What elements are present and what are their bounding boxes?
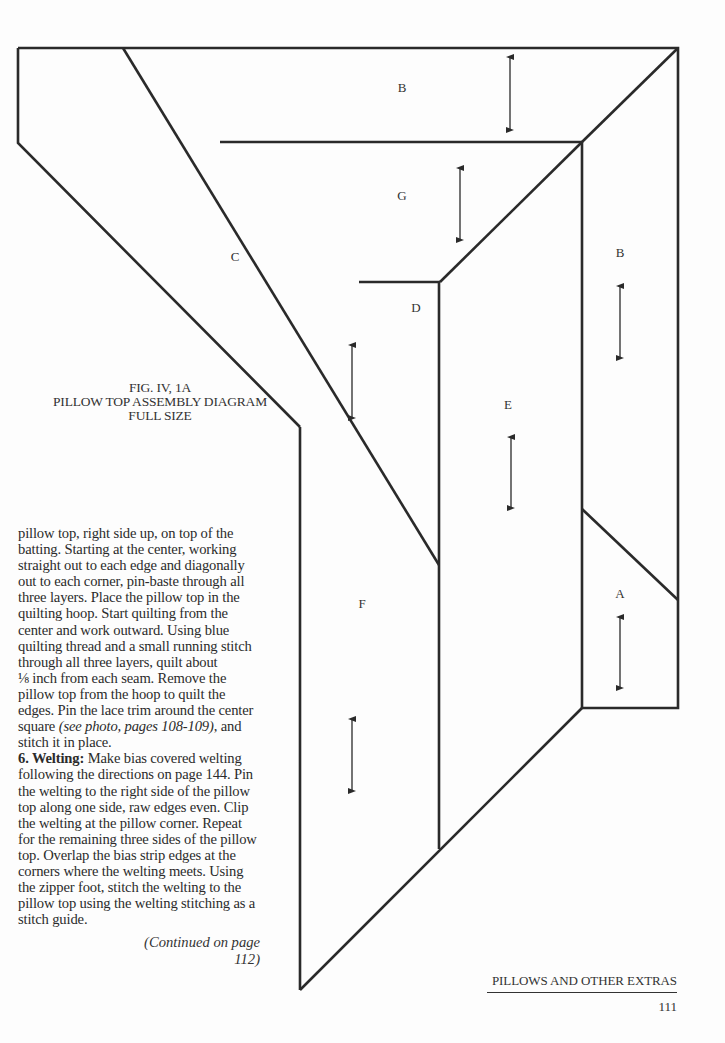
caption-title: PILLOW TOP ASSEMBLY DIAGRAM [20, 395, 300, 409]
text-line: stitch it in place. [18, 734, 298, 750]
caption-scale: FULL SIZE [20, 409, 300, 423]
piece-label-e: E [504, 397, 512, 413]
text-line: top along one side, raw edges even. Clip [18, 799, 298, 815]
text-line: pillow top from the hoop to quilt the [18, 686, 298, 702]
piece-label-g: G [397, 188, 406, 204]
continued-note: (Continued on page 112) [120, 934, 260, 968]
piece-label-d: D [411, 300, 420, 316]
piece-label-c: C [231, 249, 240, 265]
photo-reference: (see photo, pages 108-109) [59, 718, 214, 734]
g-diagonal [440, 142, 582, 282]
grain-arrows [352, 57, 620, 791]
text-fragment: , and [214, 718, 242, 734]
text-line: edges. Pin the lace trim around the cent… [18, 702, 298, 718]
text-line: following the directions on page 144. Pi… [18, 766, 298, 782]
text-line: for the remaining three sides of the pil… [18, 831, 298, 847]
text-fragment: square [18, 718, 59, 734]
running-head: PILLOWS AND OTHER EXTRAS [487, 973, 677, 993]
text-line: out to each corner, pin-baste through al… [18, 573, 298, 589]
bottom-diagonal [300, 708, 582, 990]
text-line: quilting hoop. Start quilting from the [18, 605, 298, 621]
text-line: the welting to the right side of the pil… [18, 783, 298, 799]
text-line: through all three layers, quilt about [18, 654, 298, 670]
text-line: ⅛ inch from each seam. Remove the [18, 670, 298, 686]
piece-label-b-right: B [616, 245, 625, 261]
page-number: 111 [600, 999, 677, 1015]
piece-label-a: A [615, 586, 624, 602]
text-line: straight out to each edge and diagonally [18, 557, 298, 573]
step-6-first-line: 6. Welting: Make bias covered welting [18, 750, 298, 766]
text-fragment: Make bias covered welting [84, 750, 241, 766]
text-line: pillow top, right side up, on top of the [18, 525, 298, 541]
step-6-heading: 6. Welting: [18, 750, 84, 766]
book-page: B G C D B E F A FIG. IV, 1A PILLOW TOP A… [0, 0, 725, 1043]
text-line: the zipper foot, stitch the welting to t… [18, 879, 298, 895]
piece-label-b-top: B [398, 80, 407, 96]
text-line: pillow top using the welting stitching a… [18, 895, 298, 911]
text-line: corners where the welting meets. Using [18, 863, 298, 879]
text-line: stitch guide. [18, 911, 298, 927]
text-line: batting. Starting at the center, working [18, 541, 298, 557]
piece-c-inner-edge [123, 48, 439, 565]
figure-caption: FIG. IV, 1A PILLOW TOP ASSEMBLY DIAGRAM … [20, 381, 300, 423]
instructions-text: pillow top, right side up, on top of the… [18, 525, 298, 927]
text-line: three layers. Place the pillow top in th… [18, 589, 298, 605]
text-line: center and work outward. Using blue [18, 622, 298, 638]
piece-label-f: F [358, 596, 365, 612]
text-line: top. Overlap the bias strip edges at the [18, 847, 298, 863]
a-top-seam [582, 509, 678, 600]
text-line: quilting thread and a small running stit… [18, 638, 298, 654]
corner-diagonal-outer [582, 48, 678, 142]
text-line: the welting at the pillow corner. Repeat [18, 815, 298, 831]
caption-figure-number: FIG. IV, 1A [20, 381, 300, 395]
text-line-with-reference: square (see photo, pages 108-109), and [18, 718, 298, 734]
